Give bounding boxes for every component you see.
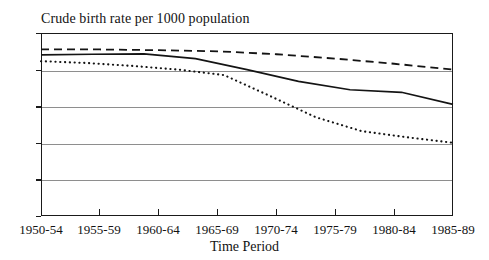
y-tick-mark-20 [36,143,41,144]
y-tick-mark-0 [36,216,41,217]
x-axis-label-1985-89: 1985-89 [418,222,488,237]
gridline-10 [42,180,452,181]
gridline-30 [42,107,452,108]
y-tick-mark-30 [36,106,41,107]
x-tick-mark-1975-79 [335,209,336,216]
gridline-40 [42,71,452,72]
y-tick-mark-10 [36,179,41,180]
y-tick-mark-50 [36,33,41,34]
chart-title: Crude birth rate per 1000 population [41,11,250,27]
x-tick-mark-1955-59 [99,209,100,216]
gridline-20 [42,144,452,145]
y-tick-mark-40 [36,70,41,71]
x-axis-title: Time Period [0,239,489,255]
x-tick-mark-1960-64 [158,209,159,216]
x-tick-mark-1970-74 [276,209,277,216]
plot-area [41,33,453,216]
chart-figure: Crude birth rate per 1000 population 50 … [0,0,489,260]
x-tick-mark-1965-69 [217,209,218,216]
x-tick-mark-1980-84 [394,209,395,216]
